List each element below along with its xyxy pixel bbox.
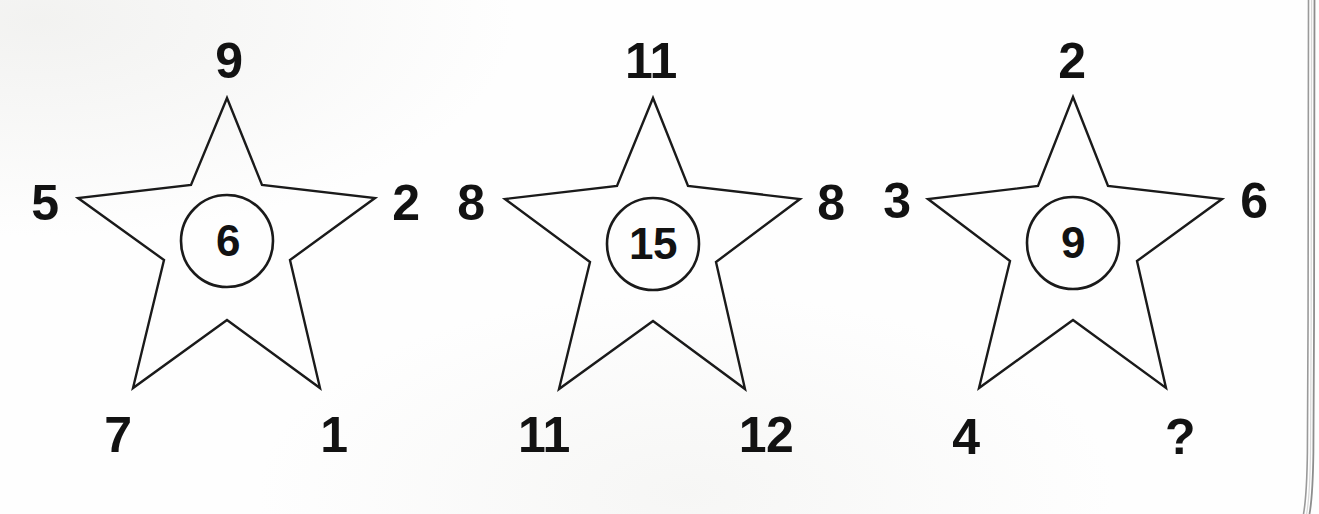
star-3-center-value: 9 [1061,221,1085,265]
star-3-point-left: 3 [883,176,910,226]
star-1-center-value: 6 [216,219,240,263]
star-2-center-value: 15 [629,222,677,266]
star-1-point-left: 5 [31,178,58,228]
star-diagram-3: 2 3 6 4 ? 9 [845,0,1285,514]
star-2-point-bottom-right: 12 [739,410,794,460]
star-1-point-bottom-left: 7 [104,410,131,460]
star-3-point-bottom-right: ? [1165,412,1195,462]
star-1-point-top: 9 [215,36,242,86]
star-diagram-1: 9 5 2 7 1 6 [0,0,440,514]
star-3-point-bottom-left: 4 [952,412,979,462]
star-3-point-top: 2 [1058,36,1085,86]
star-1-point-right: 2 [392,178,419,228]
star-2-point-top: 11 [625,36,677,86]
star-2-point-bottom-left: 11 [518,410,570,460]
star-2-point-left: 8 [457,178,484,228]
star-diagram-2: 11 8 8 11 12 15 [425,0,865,514]
star-2-point-right: 8 [817,178,844,228]
star-3-point-right: 6 [1240,176,1267,226]
star-1-point-bottom-right: 1 [320,410,347,460]
page-edge-lines [1286,0,1319,514]
scanned-page: 9 5 2 7 1 6 11 8 8 11 12 15 2 3 6 4 ? 9 [0,0,1319,514]
